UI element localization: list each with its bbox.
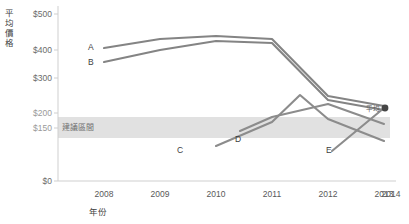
series-line-b [104, 41, 384, 110]
y-tick-label-400: $400 [18, 45, 52, 55]
y-tick-label-0: $0 [18, 176, 52, 186]
x-tick-label-2014: 2014 [375, 189, 407, 199]
series-line-a [104, 36, 384, 106]
chart-container: 平均價格 $500 $400 $300 $200 $150 $0 2008 20… [0, 0, 409, 224]
series-label-c: C [177, 145, 183, 155]
x-tick-label-2009: 2009 [143, 189, 177, 199]
suggested-range-band [58, 117, 390, 138]
x-tick-label-2008: 2008 [87, 189, 121, 199]
x-tick-label-2012: 2012 [311, 189, 345, 199]
series-label-d: D [235, 134, 241, 144]
x-tick-label-2011: 2011 [255, 189, 289, 199]
y-tick-label-150: $150 [18, 123, 52, 133]
y-tick-label-300: $300 [18, 73, 52, 83]
y-tick-marks [54, 14, 58, 181]
x-tick-label-2010: 2010 [199, 189, 233, 199]
series-label-e: E [326, 145, 332, 155]
suggested-range-label: 建議區間 [62, 121, 94, 132]
average-label: 平均 [366, 103, 380, 113]
y-axis-title: 平均價格 [3, 8, 16, 48]
average-marker-icon [382, 105, 389, 112]
series-label-b: B [88, 57, 94, 67]
x-axis-title: 年份 [89, 205, 107, 217]
y-tick-label-200: $200 [18, 108, 52, 118]
series-label-a: A [88, 42, 94, 52]
y-tick-label-500: $500 [18, 9, 52, 19]
